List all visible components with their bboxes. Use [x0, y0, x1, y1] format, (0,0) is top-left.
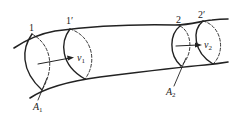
A2-pointer-line — [174, 58, 186, 86]
v1-label: v1 — [77, 52, 85, 65]
section-1prime-solid-arc — [64, 29, 85, 79]
v2-label: v2 — [204, 39, 212, 52]
section-1prime-label: 1′ — [66, 15, 73, 26]
v1-arrow-shaft — [38, 58, 70, 64]
v1-arrowhead-icon — [67, 56, 74, 61]
section-2-label: 2 — [176, 14, 181, 25]
A2-label: A2 — [165, 86, 176, 99]
tube-bottom-wall — [30, 62, 228, 98]
section-1-label: 1 — [29, 22, 34, 33]
A1-pointer-line — [38, 78, 47, 100]
section-2prime-label: 2′ — [198, 9, 205, 20]
section-1-solid-arc — [25, 34, 42, 90]
A1-label: A1 — [32, 101, 43, 114]
diagram-svg: 1 1′ 2 2′ v1 v2 A1 A2 — [0, 0, 236, 115]
v2-arrow-shaft — [176, 45, 198, 46]
stream-tube-diagram: 1 1′ 2 2′ v1 v2 A1 A2 — [0, 0, 236, 115]
